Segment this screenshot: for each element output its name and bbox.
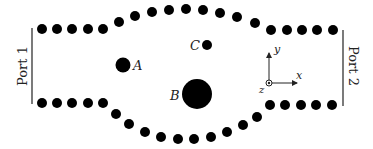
scatterer-a-circle xyxy=(116,58,131,73)
wall-rod xyxy=(83,24,93,34)
wall-rod xyxy=(266,25,276,35)
wall-rod xyxy=(173,134,183,144)
wall-rod xyxy=(52,24,62,34)
wall-rod xyxy=(198,5,208,15)
z-axis-dot xyxy=(268,82,270,84)
wall-rod xyxy=(296,100,306,110)
wall-rod xyxy=(327,100,337,110)
wall-rod xyxy=(147,7,157,17)
wall-rod xyxy=(67,98,77,108)
scatterer-c: C xyxy=(190,38,212,53)
scatterer-c-label: C xyxy=(190,38,200,53)
top-wall xyxy=(37,4,338,35)
wall-rod xyxy=(67,24,77,34)
wall-rod xyxy=(98,98,108,108)
wall-rod xyxy=(282,25,292,35)
z-axis-label: z xyxy=(258,84,265,95)
wall-rod xyxy=(164,5,174,15)
wall-rod xyxy=(328,25,338,35)
waveguide-diagram: Port 1 Port 2 A B C x y z xyxy=(0,0,373,149)
wall-rod xyxy=(238,120,248,130)
scatterer-a: A xyxy=(116,58,143,74)
wall-rod xyxy=(111,109,121,119)
coordinate-axes: x y z xyxy=(258,43,303,95)
wall-rod xyxy=(124,119,134,129)
wall-rod xyxy=(280,100,290,110)
scatterer-a-label: A xyxy=(132,58,142,73)
wall-rod xyxy=(98,24,108,34)
wall-rod xyxy=(206,132,216,142)
wall-rod xyxy=(37,98,47,108)
scatterer-b-circle xyxy=(182,79,212,109)
wall-rod xyxy=(52,98,62,108)
wall-rod xyxy=(130,11,140,21)
wall-rod xyxy=(311,100,321,110)
wall-rod xyxy=(181,4,191,14)
wall-rod xyxy=(222,127,232,137)
wall-rod xyxy=(312,25,322,35)
wall-rod xyxy=(250,18,260,28)
port-2: Port 2 xyxy=(343,30,361,106)
port-1: Port 1 xyxy=(15,28,33,104)
wall-rod xyxy=(156,132,166,142)
x-axis-label: x xyxy=(296,69,303,82)
wall-rod xyxy=(83,98,93,108)
port-1-label: Port 1 xyxy=(15,46,30,86)
scatterer-c-circle xyxy=(202,40,212,50)
wall-rod xyxy=(252,112,262,122)
wall-rod xyxy=(265,100,275,110)
scatterer-b: B xyxy=(169,79,212,109)
wall-rod xyxy=(189,134,199,144)
wall-rod xyxy=(37,24,47,34)
scatterer-b-label: B xyxy=(169,88,180,103)
wall-rod xyxy=(232,12,242,22)
port-2-label: Port 2 xyxy=(346,46,361,86)
y-axis-label: y xyxy=(273,43,281,56)
wall-rod xyxy=(215,8,225,18)
wall-rod xyxy=(114,17,124,27)
wall-rod xyxy=(297,25,307,35)
wall-rod xyxy=(140,127,150,137)
